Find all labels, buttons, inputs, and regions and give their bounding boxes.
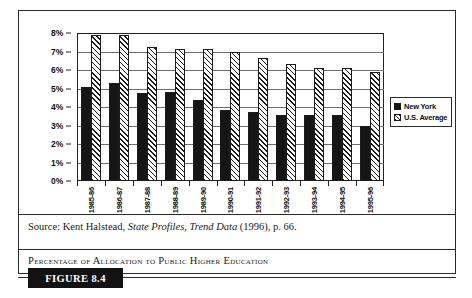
bar-new-york [360, 126, 370, 182]
x-tick-label: 1994-95 [338, 187, 347, 213]
bar-group [300, 33, 328, 181]
source-prefix: Source: Kent Halstead, [28, 221, 128, 232]
bar-new-york [81, 87, 91, 181]
x-tick-label: 1991-92 [254, 187, 263, 213]
divider-above-source [19, 214, 455, 215]
figure-caption: Percentage of Allocation to Public Highe… [28, 255, 447, 266]
x-tick-mark [356, 181, 384, 186]
legend-label-us-average: U.S. Average [404, 113, 447, 122]
bar-new-york [304, 115, 314, 181]
y-tick-label: 7% [51, 47, 63, 57]
bar-us-average [147, 47, 157, 181]
bar-us-average [258, 58, 268, 181]
x-tick-label: 1989-90 [198, 187, 207, 213]
x-tick-mark [328, 181, 356, 186]
x-tick-label: 1987-88 [142, 187, 151, 213]
figure-frame: 8%7%6%5%4%3%2%1%0% 1985-861986-871987-88… [18, 10, 456, 274]
x-tick-mark [133, 181, 161, 186]
y-tick-label: 2% [51, 139, 63, 149]
bar-us-average [230, 52, 240, 181]
y-tick-mark [66, 51, 71, 52]
bar-us-average [203, 49, 213, 181]
x-tick-mark [300, 181, 328, 186]
x-label-cell: 1988-89 [161, 187, 189, 214]
y-tick-label: 0% [51, 176, 63, 186]
x-tick-label: 1993-94 [310, 187, 319, 213]
bar-group [105, 33, 133, 181]
bar-new-york [165, 92, 175, 181]
y-tick-label: 4% [51, 102, 63, 112]
legend-entry-us-average: U.S. Average [394, 112, 448, 123]
y-tick-label: 6% [51, 65, 63, 75]
bar-group [356, 33, 384, 181]
x-tick-mark [105, 181, 133, 186]
bar-us-average [286, 64, 296, 181]
x-tick-label: 1985-86 [86, 187, 95, 213]
bar-us-average [314, 68, 324, 181]
bar-us-average [342, 68, 352, 181]
y-tick-mark [66, 181, 71, 182]
x-axis-labels: 1985-861986-871987-881988-891989-901990-… [77, 187, 384, 214]
x-tick-mark [161, 181, 189, 186]
bar-us-average [91, 35, 101, 181]
y-axis: 8%7%6%5%4%3%2%1%0% [19, 33, 71, 181]
legend-label-new-york: New York [404, 102, 436, 111]
bar-us-average [175, 49, 185, 181]
bar-group [328, 33, 356, 181]
x-tick-label: 1992-93 [282, 187, 291, 213]
figure-container: 8%7%6%5%4%3%2%1%0% 1985-861986-871987-88… [0, 0, 472, 298]
legend-entry-new-york: New York [394, 101, 448, 112]
chart-legend: New York U.S. Average [390, 97, 452, 127]
y-tick-mark [66, 162, 71, 163]
y-tick-label: 8% [51, 28, 63, 38]
x-label-cell: 1986-87 [105, 187, 133, 214]
legend-swatch-new-york [394, 103, 401, 110]
x-label-cell: 1989-90 [189, 187, 217, 214]
y-tick-label: 1% [51, 158, 63, 168]
x-tick-mark [77, 181, 105, 186]
y-tick-label: 3% [51, 121, 63, 131]
x-label-cell: 1985-86 [77, 187, 105, 214]
x-label-cell: 1992-93 [272, 187, 300, 214]
y-tick-mark [66, 70, 71, 71]
source-title-state-profiles: State Profiles [128, 221, 184, 232]
divider-above-caption [19, 249, 455, 250]
x-tick-mark [272, 181, 300, 186]
y-tick-mark [66, 88, 71, 89]
y-tick-mark [66, 125, 71, 126]
bar-group [189, 33, 217, 181]
bar-groups [77, 33, 384, 181]
bar-group [77, 33, 105, 181]
x-label-cell: 1987-88 [133, 187, 161, 214]
bar-new-york [332, 115, 342, 181]
legend-swatch-us-average [394, 114, 401, 121]
x-label-cell: 1990-91 [217, 187, 245, 214]
chart-panel: 8%7%6%5%4%3%2%1%0% 1985-861986-871987-88… [19, 11, 455, 214]
x-tick-label: 1995-96 [366, 187, 375, 213]
bar-new-york [276, 115, 286, 181]
bar-new-york [193, 100, 203, 181]
y-tick-mark [66, 107, 71, 108]
bar-new-york [109, 83, 119, 181]
x-tick-label: 1990-91 [226, 187, 235, 213]
bar-us-average [119, 35, 129, 181]
bar-group [272, 33, 300, 181]
bar-new-york [137, 93, 147, 181]
x-label-cell: 1995-96 [356, 187, 384, 214]
x-tick-label: 1988-89 [170, 187, 179, 213]
source-note: Source: Kent Halstead, State Profiles, T… [28, 221, 447, 232]
y-tick-label: 5% [51, 84, 63, 94]
y-tick-mark [66, 33, 71, 34]
x-label-cell: 1991-92 [244, 187, 272, 214]
x-label-cell: 1993-94 [300, 187, 328, 214]
bar-group [133, 33, 161, 181]
x-label-cell: 1994-95 [328, 187, 356, 214]
x-tick-mark [217, 181, 245, 186]
bar-group [161, 33, 189, 181]
bar-new-york [220, 110, 230, 181]
figure-tag: FIGURE 8.4 [28, 268, 123, 288]
x-axis-ticks [77, 181, 384, 186]
y-tick-mark [66, 144, 71, 145]
source-suffix: (1996), p. 66. [237, 221, 297, 232]
bar-new-york [248, 112, 258, 181]
